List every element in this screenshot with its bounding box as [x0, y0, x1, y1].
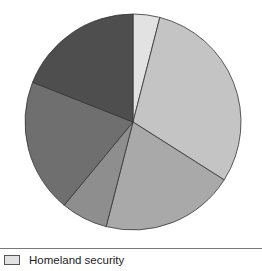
legend-swatch	[4, 255, 20, 265]
legend-label: Homeland security	[29, 254, 124, 266]
pie-chart	[0, 0, 262, 245]
legend-separator	[0, 248, 262, 249]
legend: Homeland security	[4, 254, 124, 266]
